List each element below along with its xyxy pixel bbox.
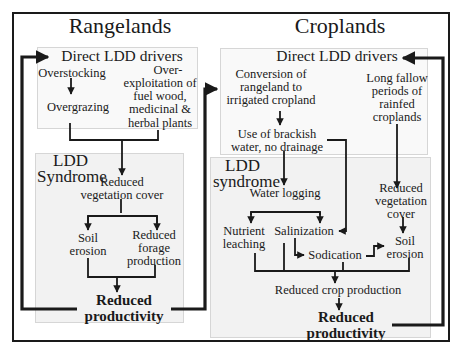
reduced-crop-production-label: Reduced crop production [270, 284, 406, 297]
crp-line-1: Reduced [300, 310, 392, 326]
salinization-label: Salinization [270, 225, 338, 238]
croplands-title: Croplands [280, 14, 400, 37]
rangelands-drivers-heading: Direct LDD drivers [52, 48, 192, 64]
long-fallow-label: Long fallow periods of rainfed croplands [358, 72, 436, 125]
overexploitation-label: Over- exploitation of fuel wood, medicin… [118, 64, 202, 130]
soil-erosion-crop-label: Soil erosion [384, 235, 426, 261]
rp-line-2: productivity [77, 309, 171, 325]
croplands-reduced-productivity: Reduced productivity [300, 310, 392, 342]
overexploitation-line-4: medicinal & [118, 103, 202, 116]
croplands-drivers-heading: Direct LDD drivers [272, 48, 402, 64]
reduced-vegetation-cover-crop-label: Reduced vegetation cover [370, 182, 432, 221]
overexploitation-line-5: herbal plants [118, 117, 202, 130]
reduced-forage-production-label: Reduced forage production [124, 229, 184, 268]
reduced-vegetation-cover-label: Reduced vegetation cover [76, 176, 168, 202]
conversion-line-3: irrigated cropland [222, 94, 320, 107]
soil-erosion-label: Soil erosion [66, 232, 110, 258]
rfp-line-3: production [124, 255, 184, 268]
overstocking-label: Overstocking [34, 67, 110, 80]
crop-soil-line-2: erosion [384, 248, 426, 261]
brackish-line-2: water, no drainage [226, 141, 328, 154]
rp-line-1: Reduced [77, 293, 171, 309]
nutrient-leaching-label: Nutrient leaching [220, 225, 268, 251]
crp-line-2: productivity [300, 326, 392, 342]
crvc-line-3: cover [370, 208, 432, 221]
rangelands-title: Rangelands [60, 14, 180, 37]
rvc-line-2: vegetation cover [76, 189, 168, 202]
sodication-label: Sodication [304, 249, 366, 262]
soil-erosion-line-2: erosion [66, 245, 110, 258]
rangelands-reduced-productivity: Reduced productivity [77, 293, 171, 325]
water-logging-label: Water logging [248, 187, 322, 200]
brackish-water-label: Use of brackish water, no drainage [226, 128, 328, 154]
conversion-label: Conversion of rangeland to irrigated cro… [222, 68, 320, 107]
overgrazing-label: Overgrazing [40, 101, 116, 114]
fallow-line-4: croplands [358, 111, 436, 124]
nutrient-line-2: leaching [220, 238, 268, 251]
